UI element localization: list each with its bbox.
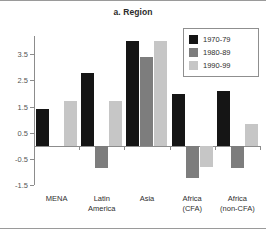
bar <box>200 146 213 167</box>
legend-item: 1980-89 <box>189 46 253 59</box>
bar <box>126 41 139 146</box>
bar <box>140 57 153 146</box>
bar <box>64 101 77 145</box>
legend-item: 1970-79 <box>189 33 253 46</box>
y-tick-label: -0.5 <box>15 154 28 163</box>
y-tick-mark <box>30 185 34 186</box>
legend-swatch <box>189 48 198 57</box>
chart-figure: a. Region 3.52.51.50.5-0.5-1.5 MENALatin… <box>0 0 266 229</box>
legend-label: 1970-79 <box>203 35 231 44</box>
y-tick-label: -1.5 <box>15 181 28 190</box>
bar <box>81 73 94 146</box>
legend-label: 1980-89 <box>203 48 231 57</box>
legend-item: 1990-99 <box>189 59 253 72</box>
y-tick-label: 0.5 <box>18 128 28 137</box>
bar <box>154 41 167 146</box>
legend-swatch <box>189 61 198 70</box>
figure-bottom-rule <box>0 228 266 229</box>
y-tick-label: 2.5 <box>18 76 28 85</box>
bar <box>172 94 185 146</box>
bar <box>245 124 258 146</box>
bar-group <box>124 36 169 185</box>
x-tick-mark <box>260 146 261 150</box>
chart-title: a. Region <box>0 7 266 17</box>
bar <box>231 146 244 168</box>
bar <box>36 109 49 146</box>
figure-top-rule <box>0 0 266 1</box>
bar <box>109 101 122 145</box>
legend-swatch <box>189 35 198 44</box>
x-category-label: Africa (non-CFA) <box>209 194 266 214</box>
bar <box>217 91 230 146</box>
bar-group <box>34 36 79 185</box>
legend-label: 1990-99 <box>203 61 231 70</box>
chart-legend: 1970-791980-891990-99 <box>183 28 259 77</box>
y-tick-label: 3.5 <box>18 50 28 59</box>
y-tick-label: 1.5 <box>18 102 28 111</box>
bar <box>186 146 199 179</box>
bar <box>95 146 108 168</box>
bar-group <box>79 36 124 185</box>
